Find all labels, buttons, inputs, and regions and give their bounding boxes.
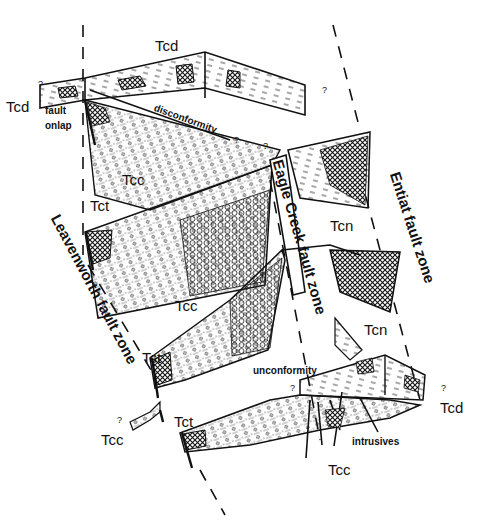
- unit-label-tct-upper: Tct: [90, 198, 109, 213]
- unit-label-tct-middle: Tct: [142, 350, 161, 365]
- annotation-fault: fault: [45, 106, 66, 116]
- geologic-cross-section: Tcd Tcd Tcc Tct Tcc Tcn Tcn Tct Tct Tcc …: [0, 0, 484, 529]
- unit-label-tct-lower: Tct: [174, 414, 193, 429]
- middle-tcn-wedge: [330, 250, 400, 312]
- unit-label-tcc-lower-left: Tcc: [101, 432, 124, 447]
- unit-label-tcd-right: Tcd: [440, 400, 463, 415]
- uncertain-mark: ?: [322, 86, 327, 95]
- lower-tcn-triangle: [335, 318, 362, 360]
- annotation-unconformity: unconformity: [253, 366, 317, 376]
- unit-label-tcn-lower: Tcn: [364, 322, 387, 337]
- uncertain-mark: ?: [234, 136, 239, 145]
- annotation-intrusives: intrusives: [352, 437, 399, 447]
- tcd-top-band: [40, 52, 305, 115]
- unit-label-tcd-left: Tcd: [6, 99, 29, 114]
- annotation-onlap: onlap: [45, 121, 72, 131]
- uncertain-mark: ?: [117, 416, 122, 425]
- uncertain-mark: ?: [290, 384, 295, 393]
- unit-label-tcd-top: Tcd: [155, 38, 178, 53]
- unit-label-tcc-middle: Tcc: [175, 298, 198, 313]
- uncertain-mark: ?: [263, 142, 268, 151]
- unit-label-tcn-upper: Tcn: [330, 218, 353, 233]
- uncertain-mark: ?: [38, 80, 43, 89]
- uncertain-mark: ?: [441, 384, 446, 393]
- lower-left-tcc-strip: [130, 402, 160, 430]
- unit-label-tcc-bottom: Tcc: [328, 462, 351, 477]
- unit-label-tcc-upper: Tcc: [122, 172, 145, 187]
